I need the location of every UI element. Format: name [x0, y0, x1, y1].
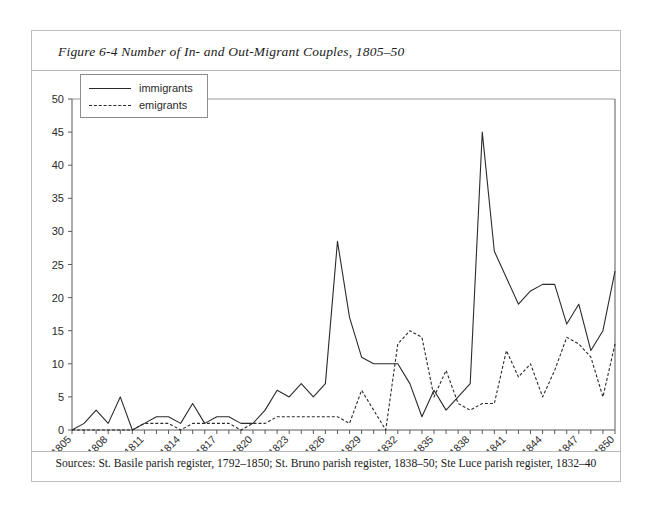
x-axis-tick-label: 1847	[555, 433, 580, 451]
legend-label-immigrants: immigrants	[139, 82, 193, 94]
x-axis-tick-label: 1826	[302, 433, 327, 451]
y-axis-tick-label: 20	[52, 292, 64, 304]
y-axis-tick-label: 30	[52, 225, 64, 237]
x-axis-tick-label: 1832	[374, 433, 399, 451]
legend-swatch-dashed-icon	[89, 105, 131, 106]
legend-item-immigrants: immigrants	[89, 80, 193, 96]
legend-label-emigrants: emigrants	[139, 99, 187, 111]
migration-line-chart: 0510152025303540455018051808181118141817…	[32, 70, 620, 451]
series-line-emigrants	[72, 331, 615, 430]
x-axis-tick-label: 1811	[121, 433, 146, 451]
x-axis-tick-label: 1805	[48, 433, 73, 451]
x-axis-tick-label: 1844	[519, 433, 544, 451]
y-axis-tick-label: 40	[52, 159, 64, 171]
x-axis-tick-label: 1838	[447, 433, 472, 451]
x-axis-tick-label: 1829	[338, 433, 363, 451]
x-axis-tick-label: 1823	[266, 433, 291, 451]
y-axis-tick-label: 25	[52, 259, 64, 271]
x-axis-tick-label: 1820	[229, 433, 254, 451]
x-axis-tick-label: 1814	[157, 433, 182, 451]
series-line-immigrants	[72, 132, 615, 430]
y-axis-tick-label: 45	[52, 126, 64, 138]
y-axis-tick-label: 15	[52, 325, 64, 337]
legend-item-emigrants: emigrants	[89, 97, 187, 113]
figure-title: Figure 6-4 Number of In- and Out-Migrant…	[58, 44, 405, 60]
y-axis-tick-label: 35	[52, 192, 64, 204]
chart-plot-area: 0510152025303540455018051808181118141817…	[32, 70, 620, 451]
legend-swatch-solid-icon	[89, 88, 131, 89]
x-axis-tick-label: 1841	[483, 433, 508, 451]
x-axis-tick-label: 1835	[410, 433, 435, 451]
source-note: Sources: St. Basile parish register, 179…	[32, 457, 620, 470]
figure-frame: Figure 6-4 Number of In- and Out-Migrant…	[31, 30, 621, 482]
x-axis-tick-label: 1850	[591, 433, 616, 451]
x-axis-tick-label: 1808	[85, 433, 110, 451]
y-axis-tick-label: 5	[58, 391, 64, 403]
y-axis-tick-label: 50	[52, 93, 64, 105]
source-divider	[32, 451, 620, 452]
x-axis-tick-label: 1817	[193, 433, 218, 451]
y-axis-tick-label: 10	[52, 358, 64, 370]
chart-legend: immigrants emigrants	[80, 74, 208, 118]
